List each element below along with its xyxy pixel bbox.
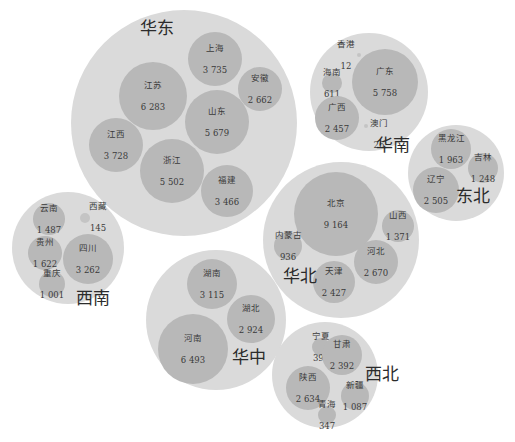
province-bubble: [364, 124, 368, 128]
province-bubble: [357, 53, 361, 57]
province-name: 上海: [206, 43, 224, 54]
province-name: 四川: [79, 243, 97, 254]
province-bubble: 安徽2 662: [238, 67, 282, 111]
region-label: 西北: [365, 360, 399, 385]
province-value: 3 735: [203, 65, 227, 76]
province-name: 湖南: [203, 268, 221, 279]
province-bubble: 吉林1 248: [468, 153, 498, 183]
province-name: 内蒙古: [275, 230, 302, 241]
province-bubble: 海南611: [322, 73, 342, 93]
region-label: 华南: [376, 131, 410, 156]
province-bubble: 浙江5 502: [140, 139, 204, 203]
province-bubble: 湖南3 115: [187, 259, 237, 309]
province-name: 河南: [184, 333, 202, 344]
province-value: 12: [341, 61, 352, 71]
province-label: 西藏145: [89, 201, 107, 234]
province-name: 江苏: [144, 80, 162, 91]
province-value: 1 487: [37, 225, 61, 236]
province-bubble: 云南1 487: [33, 203, 65, 235]
province-bubble: 广西2 457: [315, 96, 359, 140]
region-label: 东北: [456, 182, 490, 207]
province-bubble: 辽宁2 505: [413, 167, 459, 213]
province-name: 贵州: [36, 237, 54, 248]
province-value: 1 963: [439, 155, 463, 166]
province-bubble: 上海3 735: [188, 32, 242, 86]
province-name: 北京: [327, 198, 345, 209]
province-value: 2 634: [296, 394, 320, 405]
province-value: 2 662: [248, 95, 272, 106]
province-value: 5 758: [373, 88, 397, 99]
province-value: 6 493: [181, 355, 205, 366]
province-name: 香港: [337, 39, 355, 50]
province-name: 海南: [323, 67, 341, 78]
province-name: 黑龙江: [438, 133, 465, 144]
province-bubble: 山西1 371: [382, 210, 414, 242]
province-name: 安徽: [251, 73, 269, 84]
province-name: 江西: [107, 129, 125, 140]
province-value: 6 283: [141, 102, 165, 113]
province-value: 5 502: [160, 177, 184, 188]
province-bubble: 江西3 728: [89, 118, 143, 172]
province-value: 3 728: [104, 151, 128, 162]
province-value: 2 924: [239, 325, 263, 336]
province-value: 1 371: [386, 232, 410, 243]
province-bubble: 湖北2 924: [227, 295, 275, 343]
region-label: 华东: [140, 14, 174, 39]
province-name: 吉林: [474, 152, 492, 163]
province-name: 浙江: [163, 155, 181, 166]
province-bubble: 黑龙江1 963: [431, 129, 471, 169]
region-label: 华中: [232, 343, 266, 368]
province-bubble: 山东5 679: [185, 90, 249, 154]
province-value: 2 392: [330, 361, 354, 372]
province-bubble: 新疆1 087: [341, 382, 369, 410]
province-name: 山东: [208, 106, 226, 117]
province-name: 云南: [40, 203, 58, 214]
province-name: 新疆: [346, 380, 364, 391]
province-bubble: 甘肃2 392: [322, 335, 362, 375]
province-name: 陕西: [299, 372, 317, 383]
province-value: 5 679: [205, 128, 229, 139]
province-name: 辽宁: [427, 174, 445, 185]
bubble-chart: 上海3 735安徽2 662江苏6 283山东5 679江西3 728浙江5 5…: [0, 0, 515, 442]
province-bubble: 重庆1 001: [39, 271, 65, 297]
province-name: 湖北: [242, 303, 260, 314]
province-value: 2 505: [424, 196, 448, 207]
province-bubble: 四川3 262: [63, 234, 113, 284]
province-name: 天津: [325, 266, 343, 277]
province-value: 1 087: [343, 402, 367, 413]
province-value: 347: [319, 421, 335, 432]
province-value: 3 466: [215, 197, 239, 208]
province-value: 9 164: [324, 220, 348, 231]
province-value: 2 427: [322, 288, 346, 299]
province-bubble: 河南6 493: [158, 314, 228, 384]
province-name: 澳门: [370, 118, 388, 129]
province-bubble: 青海347: [318, 406, 336, 424]
province-name: 广东: [376, 66, 394, 77]
province-name: 河北: [367, 246, 385, 257]
province-name: 西藏: [89, 201, 107, 212]
province-bubble: 江苏6 283: [119, 62, 187, 130]
province-value: 2 457: [325, 124, 349, 135]
province-bubble: 福建3 466: [201, 165, 253, 217]
province-name: 广西: [328, 102, 346, 113]
province-value: 145: [90, 223, 106, 233]
province-bubble: 河北2 670: [354, 240, 398, 284]
province-bubble: 广东5 758: [352, 49, 418, 115]
region-label: 西南: [76, 284, 110, 309]
province-name: 福建: [218, 175, 236, 186]
province-value: 2 670: [364, 268, 388, 279]
province-name: 山西: [389, 210, 407, 221]
province-value: 3 262: [76, 265, 100, 276]
province-bubble: 贵州1 622: [28, 236, 62, 270]
province-bubble: 内蒙古936: [274, 232, 302, 260]
province-value: 3 115: [200, 290, 224, 301]
province-name: 重庆: [43, 268, 61, 279]
province-bubble: 天津2 427: [313, 261, 355, 303]
province-name: 青海: [318, 399, 336, 410]
province-value: 1 001: [40, 290, 64, 301]
province-value: 936: [280, 252, 296, 263]
province-name: 甘肃: [333, 339, 351, 350]
region-label: 华北: [283, 262, 317, 287]
